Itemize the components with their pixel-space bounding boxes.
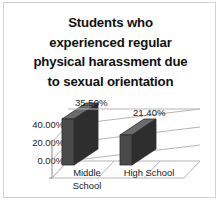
chart-title-line-3: physical harassment due — [12, 52, 209, 72]
chart-title: Students who experienced regular physica… — [12, 13, 209, 91]
chart-title-line-1: Students who — [12, 13, 209, 33]
x-axis-category-labels: Middle School High School — [12, 166, 215, 200]
data-label-middle-school: 35.50% — [75, 97, 108, 108]
category-label-middle-school-line-1: Middle — [60, 166, 114, 179]
plot-area: 40.00% 20.00% 0.00% — [12, 96, 215, 201]
category-label-middle-school-line-2: School — [60, 179, 114, 192]
chart-screenshot: Students who experienced regular physica… — [0, 0, 219, 201]
chart-title-line-4: to sexual orientation — [12, 72, 209, 92]
bar-high-school — [120, 119, 156, 165]
category-label-middle-school: Middle School — [60, 166, 114, 192]
chart-frame: Students who experienced regular physica… — [3, 2, 216, 198]
chart-title-line-2: experienced regular — [12, 33, 209, 53]
data-label-high-school: 21.40% — [133, 107, 166, 118]
bar-middle-school — [62, 103, 98, 165]
category-label-high-school: High School — [116, 166, 182, 179]
category-label-high-school-line-1: High School — [116, 166, 182, 179]
